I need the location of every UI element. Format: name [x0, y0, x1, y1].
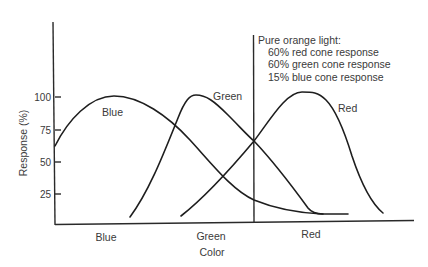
- curve-label-red: Red: [338, 102, 357, 114]
- y-tick-label-75: 75: [40, 125, 52, 136]
- y-axis: [53, 22, 55, 225]
- x-category-red: Red: [301, 228, 320, 240]
- annotation-red-response: 60% red cone response: [268, 46, 379, 58]
- x-category-blue: Blue: [95, 231, 116, 243]
- x-category-green: Green: [196, 230, 225, 242]
- y-axis-label: Response (%): [17, 110, 29, 177]
- y-tick-label-25: 25: [40, 189, 52, 200]
- y-tick-label-50: 50: [40, 157, 52, 168]
- curve-label-blue: Blue: [102, 106, 123, 118]
- cone-response-chart: 100 75 50 25 Response (%) Blue Green Red…: [0, 0, 428, 267]
- x-axis-label: Color: [199, 246, 225, 258]
- orange-light-marker-line: [254, 35, 255, 222]
- annotation-green-response: 60% green cone response: [268, 58, 391, 70]
- annotation-blue-response: 15% blue cone response: [268, 71, 384, 83]
- x-axis: [55, 221, 414, 225]
- annotation-title: Pure orange light:: [258, 34, 341, 46]
- y-tick-label-100: 100: [34, 92, 51, 103]
- curve-label-green: Green: [213, 90, 242, 102]
- blue-cone-curve: [55, 96, 348, 214]
